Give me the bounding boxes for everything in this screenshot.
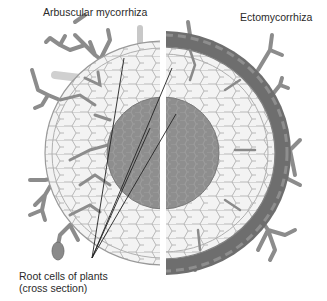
- label-root-cells-line2: (cross section): [19, 282, 108, 294]
- label-arbuscular-mycorrhiza: Arbuscular mycorrhiza: [43, 6, 147, 18]
- spore: [52, 242, 64, 260]
- mycorrhiza-diagram: [0, 0, 327, 301]
- label-root-cells: Root cells of plants (cross section): [19, 270, 108, 294]
- label-root-cells-line1: Root cells of plants: [19, 270, 108, 282]
- label-ectomycorrhiza: Ectomycorrhiza: [240, 11, 312, 23]
